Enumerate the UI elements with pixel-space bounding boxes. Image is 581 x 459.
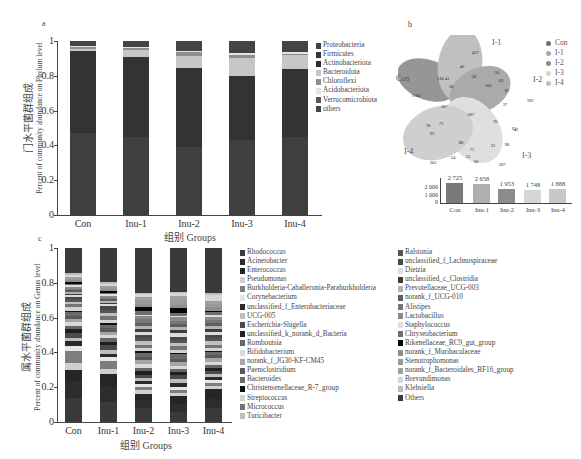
legend-item: unclassified_c_Clostridia [398, 275, 514, 284]
legend-swatch [240, 304, 245, 310]
legend-swatch [240, 277, 245, 283]
legend-label: Burkholderia-Caballeronia-Paraburkholder… [247, 284, 376, 293]
legend-item: unclassified_k_norank_d_Bacteria [240, 330, 376, 339]
legend-label: Pseudomonas [247, 275, 287, 284]
bar-segment [229, 76, 255, 140]
stacked-bar [135, 248, 152, 422]
panel-a-legend: ProteobacteriaFirmicutesActinobacteriota… [316, 41, 377, 114]
inset-bar [549, 189, 566, 203]
venn-region-value: 73 [439, 121, 444, 126]
panel-a-y-axis [57, 41, 58, 216]
venn-region-value: 302 [430, 160, 437, 165]
venn-label-i4: I-4 [404, 147, 413, 156]
legend-label: Streptococcus [247, 394, 287, 403]
stacked-bar [282, 41, 308, 215]
legend-swatch [398, 322, 403, 328]
legend-item: Bifidobacterium [240, 348, 376, 357]
y-tick-label: 0.8 [32, 277, 54, 288]
bar-segment [282, 55, 308, 69]
inset-y-axis [440, 178, 441, 204]
venn-region-value: 70 [493, 119, 498, 124]
legend-item: Actinobacteriota [316, 59, 377, 68]
x-tick-label: Inu-4 [189, 425, 239, 436]
legend-label: I-1 [555, 48, 564, 58]
legend-swatch [240, 340, 245, 346]
inset-bar [473, 184, 490, 203]
legend-item: norank_f_JG30-KF-CM45 [240, 357, 376, 366]
legend-label: Rhodococcus [247, 248, 286, 257]
bar-segment [229, 58, 255, 75]
venn-label-con: Con [396, 74, 409, 83]
legend-swatch [316, 88, 321, 94]
legend-label: I-2 [555, 58, 564, 68]
venn-region-value: 50 [472, 74, 477, 79]
legend-swatch [398, 250, 403, 256]
bar-segment [135, 408, 152, 422]
venn-legend-item: Con [546, 38, 568, 48]
venn-region-value: 46 [460, 64, 465, 69]
legend-item: Firmicutes [316, 50, 377, 59]
venn-diagram [398, 35, 518, 175]
venn-legend-item: I-3 [546, 68, 568, 78]
x-tick-label: Inu-2 [164, 218, 214, 229]
legend-swatch [398, 268, 403, 274]
legend-swatch [240, 377, 245, 383]
bar-segment [70, 51, 96, 133]
legend-item: Staphylococcus [398, 321, 514, 330]
venn-region-value: 392 [527, 98, 534, 103]
bar-segment [229, 140, 255, 215]
stacked-bar [65, 248, 82, 422]
legend-item: Bacteroidota [316, 68, 377, 77]
legend-swatch [316, 61, 321, 67]
legend-item: norank_f_Muribaculaceae [398, 348, 514, 357]
legend-swatch [398, 259, 403, 265]
legend-label: norank_f_JG30-KF-CM45 [247, 357, 324, 366]
venn-region-value: 107 [441, 104, 448, 109]
legend-item: Escherichia-Shigella [240, 321, 376, 330]
venn-region-value: 53 [466, 154, 471, 159]
legend-item: Pseudomonas [240, 275, 376, 284]
legend-swatch [398, 295, 403, 301]
y-tick-label: 0.8 [32, 70, 54, 81]
legend-label: unclassified_f_Enterobacteriaceae [247, 303, 346, 312]
x-tick-label: Inu-3 [217, 218, 267, 229]
legend-item: Proteobacteria [316, 41, 377, 50]
panel-a-x-title: 组别 Groups [140, 229, 240, 244]
inset-x-label: Con [440, 206, 470, 213]
inset-y-tick: 1 000 [408, 192, 438, 198]
legend-swatch [398, 331, 403, 337]
legend-label: Firmicutes [323, 50, 354, 59]
legend-label: Con [555, 38, 568, 48]
legend-swatch [240, 313, 245, 319]
legend-label: Klebsiella [405, 384, 434, 393]
legend-item: unclassified_f_Lachnospiraceae [398, 257, 514, 266]
legend-swatch [398, 340, 403, 346]
legend-swatch [240, 368, 245, 374]
venn-region-value: 50 [495, 70, 500, 75]
bar-segment [205, 399, 222, 408]
venn-label-i2: I-2 [533, 75, 542, 84]
legend-item: Acidobacteriota [316, 86, 377, 95]
bar-segment [100, 361, 117, 370]
legend-dot-icon [546, 61, 551, 66]
legend-label: UCG-005 [247, 312, 275, 321]
legend-label: Acinetobacter [247, 257, 287, 266]
legend-swatch [240, 359, 245, 365]
legend-item: Christensenellaceae_R-7_group [240, 384, 376, 393]
venn-region-value: 54 [451, 155, 456, 160]
legend-item: unclassified_f_Enterobacteriaceae [240, 303, 376, 312]
venn-region-value: 37 [503, 102, 508, 107]
panel-c-y-axis [57, 248, 58, 423]
bar-segment [135, 400, 152, 408]
legend-item: norank_f_UCG-010 [398, 293, 514, 302]
venn-region-value: 88 [459, 140, 464, 145]
venn-legend-item: I-1 [546, 48, 568, 58]
legend-swatch [240, 322, 245, 328]
bar-segment [176, 56, 202, 68]
legend-swatch [240, 404, 245, 410]
legend-item: Rikenellaceae_RC9_gut_group [398, 339, 514, 348]
legend-item: Rhodococcus [240, 248, 376, 257]
bar-segment [176, 68, 202, 147]
venn-region-value: 130 [437, 76, 444, 81]
y-tick-label: 0.4 [32, 139, 54, 150]
